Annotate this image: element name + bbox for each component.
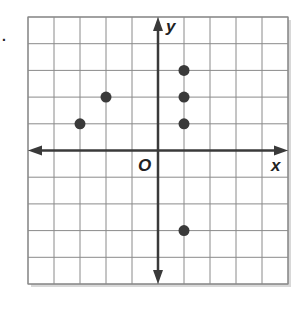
data-point	[75, 118, 86, 129]
y-axis-label: y	[165, 17, 177, 36]
data-point	[179, 118, 190, 129]
origin-label: O	[138, 156, 151, 175]
x-axis-label: x	[270, 156, 282, 175]
data-point	[179, 92, 190, 103]
data-point	[101, 92, 112, 103]
data-point	[179, 225, 190, 236]
coordinate-plane: yxO	[0, 0, 295, 313]
data-point	[179, 65, 190, 76]
